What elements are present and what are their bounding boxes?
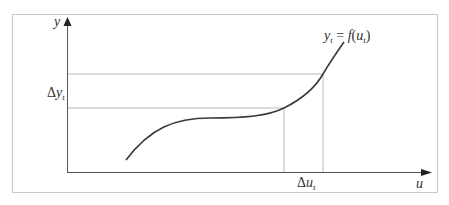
x-axis-arrow-icon (421, 169, 432, 176)
curve-label-close-paren: ) (366, 28, 371, 44)
x-axis-label: u (416, 176, 423, 191)
delta-u-sub: t (313, 182, 316, 192)
delta-u-var: u (306, 175, 313, 190)
curve-label-equals: = (333, 28, 348, 43)
function-curve (126, 42, 344, 160)
curve-label-arg-var: u (356, 28, 363, 43)
diagram-canvas: y u yt = f(ut) Δyt Δut (0, 0, 449, 205)
diagram-frame (13, 15, 438, 193)
delta-y-sub: t (62, 92, 65, 102)
delta-u-symbol: Δ (297, 175, 306, 190)
delta-y-symbol: Δ (47, 85, 56, 100)
curve-label: yt = f(ut) (322, 28, 371, 45)
delta-y-label: Δyt (47, 85, 65, 102)
y-axis-arrow-icon (64, 17, 72, 26)
y-axis-label: y (52, 14, 61, 29)
delta-u-label: Δut (297, 175, 316, 192)
